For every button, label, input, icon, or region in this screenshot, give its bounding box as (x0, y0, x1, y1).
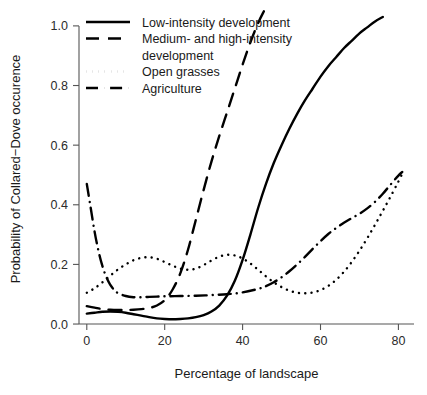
series-line-open-grasses (87, 173, 403, 293)
series-group (87, 11, 403, 319)
x-tick-label: 40 (236, 334, 250, 348)
x-tick-label: 80 (391, 334, 405, 348)
x-tick-label: 0 (83, 334, 90, 348)
figure-container: 0204060800.00.20.40.60.81.0Percentage of… (0, 0, 427, 395)
series-line-agriculture (87, 172, 403, 297)
chart-legend: Low-intensity developmentMedium- and hig… (86, 16, 293, 96)
legend-label-2: Open grasses (142, 65, 220, 79)
legend-label-1: Medium- and high-intensity (142, 32, 293, 46)
series-line-low-intensity-development (87, 17, 383, 319)
legend-label-0: Low-intensity development (142, 16, 291, 30)
x-tick-label: 60 (314, 334, 328, 348)
x-axis-title: Percentage of landscape (175, 366, 319, 381)
y-tick-label: 1.0 (51, 19, 68, 33)
y-tick-label: 0.6 (51, 139, 68, 153)
y-tick-label: 0.8 (51, 79, 68, 93)
y-tick-label: 0.2 (51, 258, 68, 272)
y-tick-label: 0.0 (51, 318, 68, 332)
x-tick-label: 20 (158, 334, 172, 348)
legend-label-3: Agriculture (142, 82, 202, 96)
y-tick-label: 0.4 (51, 198, 68, 212)
legend-label-1-cont: development (142, 49, 214, 63)
y-axis-title: Probability of Collared−Dove occurence (8, 55, 23, 284)
chart-canvas: 0204060800.00.20.40.60.81.0Percentage of… (0, 0, 427, 395)
